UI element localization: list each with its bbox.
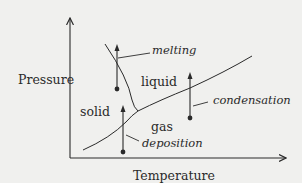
process-label-condensation: condensation — [213, 93, 291, 107]
deposition-leader-line — [126, 135, 139, 141]
process-label-deposition: deposition — [142, 136, 203, 150]
condensation-arrow — [188, 72, 209, 120]
region-label-gas: gas — [151, 119, 173, 134]
melting-start-dot — [115, 87, 120, 92]
condensation-start-dot — [188, 116, 193, 121]
deposition-start-dot — [121, 150, 126, 155]
melting-curve — [105, 44, 138, 111]
condensation-leader-line — [193, 102, 208, 106]
y-axis-label: Pressure — [18, 72, 74, 87]
region-label-liquid: liquid — [141, 74, 177, 89]
region-label-solid: solid — [80, 104, 110, 119]
melting-leader-line — [118, 53, 150, 58]
x-axis-label: Temperature — [133, 168, 215, 183]
phase-diagram: Pressure Temperature solid liquid gas me… — [0, 0, 302, 183]
process-label-melting: melting — [152, 43, 196, 57]
